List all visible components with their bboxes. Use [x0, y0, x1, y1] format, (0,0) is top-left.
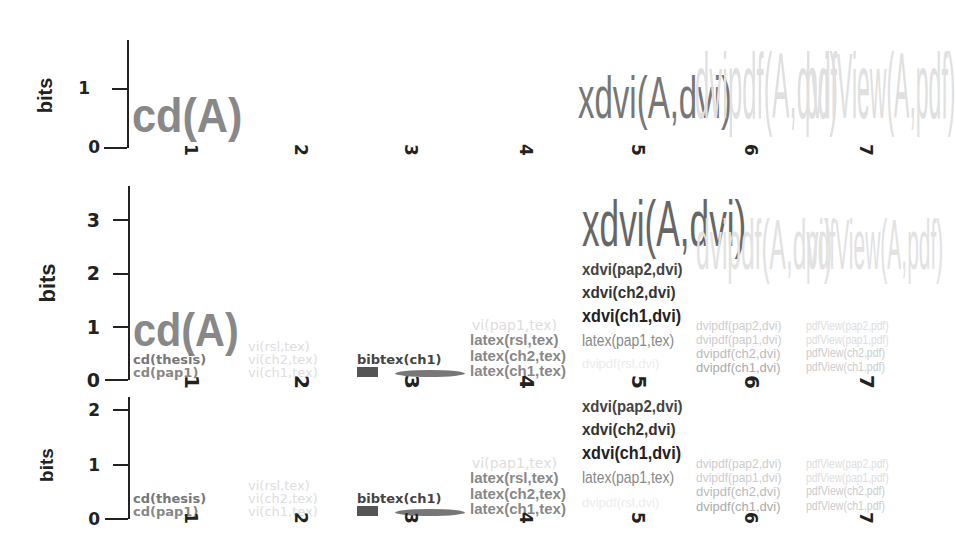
- y-tick-label: 0: [70, 509, 100, 529]
- logo-glyph: latex(pap1,tex): [582, 469, 674, 486]
- logo-glyph: latex(ch2,tex): [470, 486, 566, 501]
- logo-glyph: bibtex(ch1): [357, 492, 441, 505]
- logo-glyph: xdvi(pap2,dvi): [582, 398, 683, 415]
- logo-glyph: pdfView(pap1,pdf): [806, 472, 889, 484]
- y-tick-label: 1: [70, 455, 100, 475]
- x-tick-label: 3: [401, 512, 421, 524]
- y-tick: [105, 518, 128, 520]
- x-tick-label: 7: [856, 512, 876, 524]
- logo-glyph: dvipdf(ch2,dvi): [696, 485, 781, 498]
- y-tick-label: 2: [70, 400, 100, 420]
- logo-glyph: dvipdf(rsl,dvi): [582, 496, 659, 509]
- logo-glyph: dvipdf(pap1,dvi): [696, 472, 781, 484]
- y-tick: [113, 409, 128, 411]
- logo-glyph: dvipdf(pap2,dvi): [696, 458, 781, 470]
- logo-glyph: pdfView(ch1,pdf): [806, 500, 885, 512]
- x-tick-label: 1: [181, 512, 201, 524]
- y-axis-label: bits: [36, 448, 58, 482]
- logo-glyph: vi(pap1,tex): [472, 456, 557, 470]
- x-tick-label: 5: [628, 512, 648, 524]
- y-axis: [128, 397, 130, 519]
- x-tick-label: 4: [516, 512, 536, 524]
- logo-glyph: dvipdf(ch1,dvi): [696, 500, 781, 513]
- logo-glyph: latex(rsl,tex): [470, 470, 558, 485]
- x-tick-label: 2: [291, 512, 311, 524]
- logo-glyph: xdvi(ch2,dvi): [582, 421, 676, 438]
- logo-glyph: xdvi(ch1,dvi): [582, 444, 681, 462]
- y-tick: [113, 464, 128, 466]
- logo-glyph: pdfView(ch2,pdf): [806, 485, 885, 497]
- logo-glyph-squashed: [357, 506, 378, 516]
- logo-glyph: pdfView(pap2,pdf): [806, 458, 889, 470]
- x-tick-label: 6: [741, 512, 761, 524]
